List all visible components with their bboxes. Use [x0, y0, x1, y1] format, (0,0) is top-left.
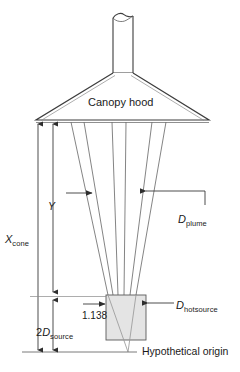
d-hotsource-symbol: D	[176, 299, 184, 311]
d-plume-symbol: D	[178, 213, 186, 225]
diagram-canvas	[0, 0, 240, 372]
x-cone-subscript: cone	[12, 239, 29, 248]
x-cone-label: Xcone	[5, 230, 29, 246]
canopy-hood-label: Canopy hood	[88, 97, 153, 108]
d-hotsource-subscript: hotsource	[184, 305, 218, 314]
d-hotsource-label: Dhotsource	[176, 296, 218, 312]
ratio-value-label: 1.138	[82, 311, 107, 321]
hot-source-box	[106, 295, 146, 340]
hypothetical-origin-label: Hypothetical origin	[142, 346, 228, 357]
two-d-source-symbol: D	[42, 326, 50, 338]
exhaust-stack	[113, 13, 133, 73]
plume-boundary-lines	[71, 122, 166, 295]
d-plume-label: Dplume	[178, 210, 207, 226]
two-d-source-label: 2Dsource	[36, 323, 73, 339]
canopy-hood-diagram: Canopy hood Y Xcone Dplume Dhotsource 2D…	[0, 0, 240, 372]
y-dimension-label: Y	[48, 201, 55, 212]
d-plume-subscript: plume	[186, 219, 207, 228]
two-d-source-subscript: source	[50, 332, 73, 341]
